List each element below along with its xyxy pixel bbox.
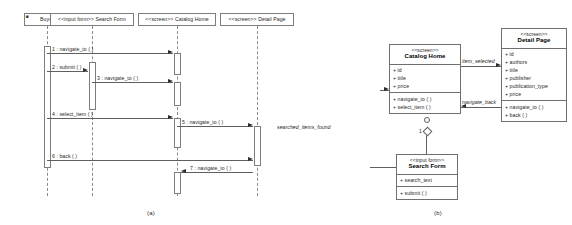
message-arrow-3 [168,79,173,83]
class-operations-search-form: + submit ( ) [397,186,457,199]
association-line-navigate-back [461,107,501,108]
attribute-row: + price [393,82,457,90]
class-header-catalog-home: <<screen>> Catalog Home [390,45,460,65]
lifeline-header-detail-page: <<screen>> Detail Page [220,13,294,26]
message-label-6: 6 : back ( ) [52,153,77,159]
attribute-row: + price [505,90,563,98]
multiplicity-label: 1 [419,128,422,134]
message-arrow-5 [248,123,253,127]
operation-row: + submit ( ) [400,189,454,197]
message-label-2: 2 : submit ( ) [52,64,82,70]
association-line-item-selected [461,66,501,67]
operation-row: + navigate_to ( ) [393,95,457,103]
association-label-item-selected: item_selected [462,58,495,64]
message-arrow-6 [248,157,253,161]
activation-detail-page [254,126,261,166]
message-line-7 [181,172,253,173]
message-line-6 [47,160,253,161]
association-label-navigate-back: navigate_back [462,99,496,105]
operation-row: + select_item ( ) [393,103,457,111]
class-attributes-detail-page: + id + authors + title + publisher + pub… [502,49,566,101]
lifeline-label-detail-page: <<screen>> Detail Page [228,17,285,23]
lifeline-header-search-form: <<input form>> Search Form [50,13,134,26]
message-arrow-4 [168,115,173,119]
class-box-search-form: <<input form>> Search Form + search_text… [396,154,458,200]
message-label-1: 1 : navigate_to ( ) [52,46,93,52]
lifeline-label-search-form: <<input form>> Search Form [58,17,126,23]
message-arrow-1 [168,50,173,54]
message-label-7: 7 : navigate_to ( ) [190,165,231,171]
attribute-row: + search_text [400,176,454,184]
message-line-4 [47,118,173,119]
class-operations-catalog-home: + navigate_to ( ) + select_item ( ) [390,92,460,113]
message-arrow-2 [83,68,88,72]
uml-figure: Buyer ■ <<input form>> Search Form <<scr… [0,0,572,225]
class-box-detail-page: <<screen>> Detail Page + id + authors + … [501,28,567,122]
activation-search-form [89,62,96,110]
activation-catalog-home-4 [174,172,181,194]
lifeline-catalog-home [177,26,178,196]
lifeline-detail-page [257,26,258,196]
class-name-catalog-home: Catalog Home [393,53,457,61]
message-line-5 [177,126,253,127]
class-attributes-catalog-home: + id + title + price [390,65,460,93]
lifeline-label-catalog-home: <<screen>> Catalog Home [145,17,208,23]
sequence-diagram: Buyer ■ <<input form>> Search Form <<scr… [0,0,300,210]
association-arrow-item-selected [496,63,501,67]
lifeline-header-catalog-home: <<screen>> Catalog Home [138,13,216,26]
attribute-row: + id [505,50,563,58]
actor-icon: ■ [26,13,29,19]
class-operations-detail-page: + navigate_to ( ) + back ( ) [502,100,566,121]
message-label-3: 3 : navigate_to ( ) [97,75,138,81]
caption-b: (b) [434,210,442,216]
message-label-5: 5 : navigate_to ( ) [182,119,223,125]
activation-buyer [44,46,51,168]
attribute-row: + publisher [505,74,563,82]
class-name-search-form: Search Form [400,163,454,171]
operation-row: + navigate_to ( ) [505,103,563,111]
association-line-searched-items-found-horizontal [370,167,396,168]
attribute-row: + id [393,66,457,74]
association-circle-end [424,117,430,123]
activation-catalog-home-2 [174,82,181,106]
attribute-row: + authors [505,58,563,66]
message-line-1 [47,53,173,54]
class-attributes-search-form: + search_text [397,175,457,187]
message-line-2 [47,71,88,72]
association-label-searched-items-found: searched_items_found [277,124,331,130]
activation-catalog-home-3 [174,118,181,148]
activation-catalog-home-1 [174,53,181,75]
message-line-3 [92,82,173,83]
association-stub-arrow-catalog-home [384,87,389,91]
class-header-detail-page: <<screen>> Detail Page [502,29,566,49]
class-name-detail-page: Detail Page [505,37,563,45]
attribute-row: + title [505,66,563,74]
message-label-4: 4 : select_item ( ) [52,111,93,117]
message-arrow-7 [181,169,186,173]
attribute-row: + title [393,74,457,82]
caption-a: (a) [147,210,155,216]
attribute-row: + publication_type [505,82,563,90]
aggregation-diamond [422,127,432,137]
operation-row: + back ( ) [505,111,563,119]
class-header-search-form: <<input form>> Search Form [397,155,457,175]
class-box-catalog-home: <<screen>> Catalog Home + id + title + p… [389,44,461,114]
